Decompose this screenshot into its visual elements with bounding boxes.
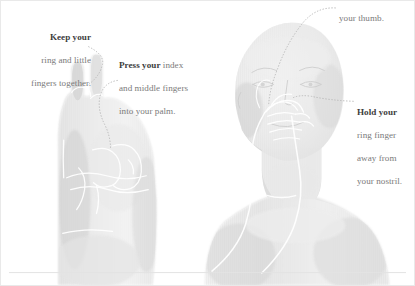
callout-hold-lead: Hold your bbox=[357, 107, 415, 118]
callout-keep-line3: fingers together. bbox=[5, 78, 91, 89]
callout-hold-line2: ring finger bbox=[357, 130, 415, 141]
callout-keep-your: Keep your ring and little fingers togeth… bbox=[5, 21, 91, 101]
callout-keep-lead: Keep your bbox=[5, 32, 91, 43]
callout-thumb-line1: your thumb. bbox=[339, 13, 413, 24]
callout-press-lead: Press your bbox=[119, 60, 161, 70]
callout-your-thumb: your thumb. bbox=[339, 2, 413, 36]
callout-keep-line2: ring and little bbox=[5, 55, 91, 66]
callout-press-your: Press your index and middle fingers into… bbox=[119, 49, 215, 129]
illustration-canvas: Keep your ring and little fingers togeth… bbox=[0, 0, 415, 286]
callout-press-lead-tail: index bbox=[161, 60, 184, 70]
callout-hold-line3: away from bbox=[357, 153, 415, 164]
callout-hold-line4: your nostril. bbox=[357, 176, 415, 187]
callout-press-line3: into your palm. bbox=[119, 106, 215, 117]
callout-hold-your: Hold your ring finger away from your nos… bbox=[357, 96, 415, 199]
callout-press-line2: and middle fingers bbox=[119, 83, 215, 94]
